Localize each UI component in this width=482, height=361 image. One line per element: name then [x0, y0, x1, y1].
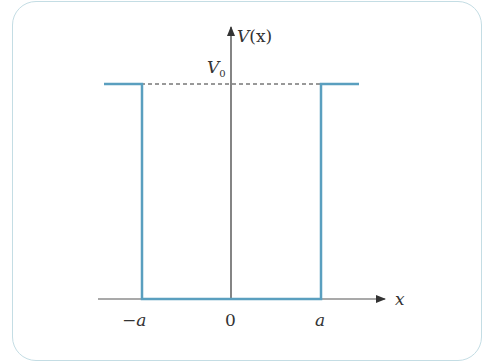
tick-label-a: a	[315, 310, 325, 330]
y-axis-label: V(x)	[237, 26, 272, 46]
tick-label-minus-a: −a	[122, 310, 146, 330]
v0-label: V0	[207, 57, 226, 79]
x-axis-label: x	[395, 289, 405, 309]
tick-label-zero: 0	[225, 310, 236, 330]
